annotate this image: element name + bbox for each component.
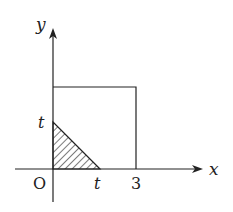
x-axis-label: x <box>209 159 219 179</box>
origin-label: O <box>33 174 46 193</box>
x-tick-t-label: t <box>94 174 101 193</box>
y-tick-t-label: t <box>38 113 45 132</box>
diagram-canvas: y x O t t 3 <box>0 0 233 212</box>
y-axis-label: y <box>35 14 46 34</box>
x-tick-3-label: 3 <box>131 174 141 193</box>
shaded-triangle <box>53 122 100 169</box>
diagram-svg: y x O t t 3 <box>0 0 233 212</box>
